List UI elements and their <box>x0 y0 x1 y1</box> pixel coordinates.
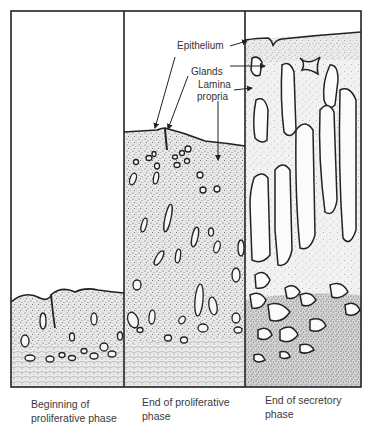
panel-end-proliferative <box>124 128 245 387</box>
panel-end-secretory <box>245 32 361 387</box>
caption-end-secretory: End of secretory phase <box>265 393 341 421</box>
glands-leader-to-panel2 <box>168 76 188 129</box>
basal-layer <box>124 338 245 387</box>
caption-beginning-proliferative: Beginning of proliferative phase <box>31 397 117 425</box>
label-epithelium: Epithelium <box>177 40 224 52</box>
endometrium-diagram <box>0 0 374 425</box>
label-lamina-propria-1: Lamina <box>198 79 231 91</box>
caption-end-proliferative: End of proliferative phase <box>142 395 230 423</box>
label-glands: Glands <box>191 66 223 78</box>
panel-beginning-proliferative <box>11 289 124 387</box>
caption-line: End of proliferative <box>142 395 230 409</box>
caption-line: End of secretory <box>265 393 341 407</box>
label-lamina-propria-2: propria <box>197 91 228 103</box>
basal-layer <box>245 293 361 387</box>
caption-line: Beginning of <box>31 397 117 411</box>
caption-line: phase <box>142 409 230 423</box>
caption-line: proliferative phase <box>31 411 117 425</box>
caption-line: phase <box>265 407 341 421</box>
basal-layer <box>11 344 124 387</box>
